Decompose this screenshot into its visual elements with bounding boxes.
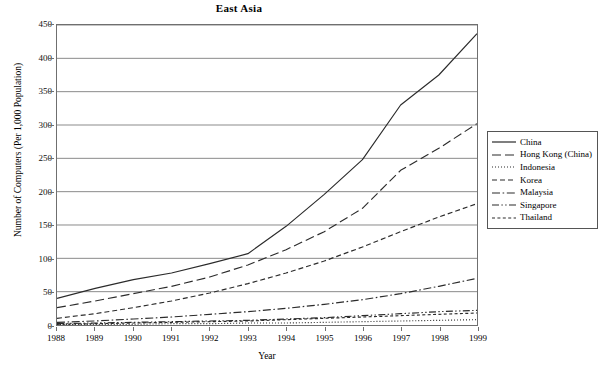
x-tick-mark [133,327,134,331]
legend-label: Thailand [520,213,552,222]
y-tick-mark [48,192,54,193]
legend-item-china[interactable]: China [492,136,592,149]
y-tick-mark [48,292,54,293]
legend-label: Hong Kong (China) [520,150,592,159]
x-tick-mark [209,327,210,331]
x-tick-label: 1995 [316,333,334,343]
x-tick-label: 1993 [239,333,257,343]
plot-svg [57,25,477,325]
series-line-korea [57,204,477,319]
x-tick-mark [94,327,95,331]
x-tick-mark [478,327,479,331]
legend-swatch-indonesia [492,162,516,172]
chart-title: East Asia [0,2,478,14]
x-tick-label: 1989 [85,333,103,343]
chart-legend: ChinaHong Kong (China)IndonesiaKoreaMala… [487,131,598,229]
x-tick-label: 1997 [392,333,410,343]
x-tick-mark [248,327,249,331]
x-tick-mark [363,327,364,331]
y-tick-label: 450 [18,19,52,29]
x-tick-mark [171,327,172,331]
y-tick-mark [48,225,54,226]
legend-label: Singapore [520,201,557,210]
legend-label: Malaysia [520,188,553,197]
legend-item-hong-kong-china[interactable]: Hong Kong (China) [492,149,592,162]
legend-swatch-malaysia [492,188,516,198]
x-tick-mark [286,327,287,331]
legend-swatch-korea [492,175,516,185]
y-tick-label: 150 [18,220,52,230]
legend-item-indonesia[interactable]: Indonesia [492,161,592,174]
x-tick-mark [56,327,57,331]
x-tick-label: 1990 [124,333,142,343]
x-tick-mark [325,327,326,331]
legend-swatch-singapore [492,200,516,210]
y-tick-label: 300 [18,120,52,130]
y-tick-label: 200 [18,187,52,197]
y-tick-mark [48,158,54,159]
x-axis-label: Year [56,351,478,361]
y-tick-mark [48,125,54,126]
y-tick-mark [48,259,54,260]
series-line-thailand [57,313,477,324]
legend-item-korea[interactable]: Korea [492,174,592,187]
plot-area [56,24,478,326]
y-tick-mark [48,326,54,327]
y-tick-mark [48,91,54,92]
legend-label: Korea [520,176,542,185]
legend-swatch-hong-kong-china [492,150,516,160]
x-tick-label: 1994 [277,333,295,343]
series-line-singapore [57,310,477,323]
legend-item-thailand[interactable]: Thailand [492,212,592,225]
y-tick-label: 400 [18,53,52,63]
x-tick-label: 1992 [200,333,218,343]
x-axis-ticks: 1988198919901991199219931994199519961997… [56,327,478,349]
x-tick-label: 1999 [469,333,487,343]
y-tick-mark [48,58,54,59]
legend-item-singapore[interactable]: Singapore [492,199,592,212]
x-tick-mark [440,327,441,331]
y-tick-label: 350 [18,86,52,96]
legend-swatch-china [492,137,516,147]
legend-swatch-thailand [492,213,516,223]
legend-item-malaysia[interactable]: Malaysia [492,186,592,199]
legend-label: China [520,138,542,147]
x-tick-label: 1998 [431,333,449,343]
x-tick-label: 1996 [354,333,372,343]
y-tick-label: 100 [18,254,52,264]
legend-label: Indonesia [520,163,555,172]
x-tick-mark [401,327,402,331]
x-tick-label: 1991 [162,333,180,343]
y-axis-ticks: 050100150200250300350400450 [0,24,52,326]
y-tick-mark [48,24,54,25]
x-tick-label: 1988 [47,333,65,343]
y-tick-label: 50 [18,287,52,297]
y-tick-label: 250 [18,153,52,163]
series-line-hong-kong-china [57,124,477,308]
y-tick-label: 0 [18,321,52,331]
